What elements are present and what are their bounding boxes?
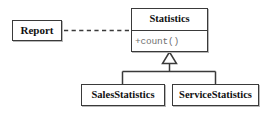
class-name-service-statistics: ServiceStatistics <box>179 90 252 101</box>
class-operations-compartment-statistics: +count() <box>132 31 207 51</box>
class-name-statistics: Statistics <box>149 14 189 25</box>
class-name-sales-statistics: SalesStatistics <box>92 90 155 101</box>
class-operation-count: +count() <box>135 36 179 47</box>
class-box-service-statistics[interactable]: ServiceStatistics <box>172 84 259 106</box>
class-name-report: Report <box>21 25 54 36</box>
generalization-hollow-triangle-icon <box>163 52 177 64</box>
class-box-report[interactable]: Report <box>12 20 62 41</box>
class-box-sales-statistics[interactable]: SalesStatistics <box>81 84 165 106</box>
class-box-statistics[interactable]: Statistics +count() <box>131 8 208 52</box>
class-name-compartment-statistics: Statistics <box>132 9 207 31</box>
uml-class-diagram: Report Statistics +count() SalesStatisti… <box>0 0 270 113</box>
